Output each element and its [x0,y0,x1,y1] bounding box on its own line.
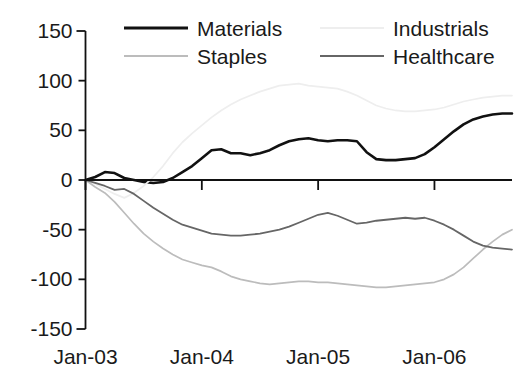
x-axis-label-2: Jan-05 [286,345,350,369]
line-swatch-staples-icon [124,50,188,62]
line-swatch-industrials-icon [320,22,384,34]
series-line-staples [86,180,513,287]
legend-item-staples: Staples [124,46,320,67]
legend-item-healthcare: Healthcare [320,46,519,67]
legend-label-staples: Staples [197,46,267,67]
chart-series-layer [86,84,513,288]
line-swatch-healthcare-icon [320,50,384,62]
legend-label-healthcare: Healthcare [393,46,495,67]
legend-item-industrials: Industrials [320,18,519,39]
y-axis-label-0: 150 [0,19,73,43]
y-axis-label-5: -100 [0,267,73,291]
legend-row-1: Materials Industrials [124,14,519,42]
legend-item-materials: Materials [124,18,320,39]
line-chart-sector-performance: 150100500-50-100-150 Jan-03Jan-04Jan-05J… [0,0,529,389]
y-axis-label-4: -50 [0,218,73,242]
y-axis-label-2: 50 [0,118,73,142]
line-swatch-materials-icon [124,22,188,34]
x-axis-label-0: Jan-03 [53,345,117,369]
chart-legend: Materials Industrials Staples Healthcare [124,14,519,70]
chart-axis-layer [77,31,513,329]
y-axis-label-3: 0 [0,168,73,192]
series-line-materials [86,113,513,183]
legend-row-2: Staples Healthcare [124,42,519,70]
legend-label-materials: Materials [197,18,282,39]
x-axis-label-1: Jan-04 [170,345,234,369]
y-axis-label-1: 100 [0,69,73,93]
x-axis-label-3: Jan-06 [402,345,466,369]
y-axis-label-6: -150 [0,317,73,341]
legend-label-industrials: Industrials [393,18,489,39]
